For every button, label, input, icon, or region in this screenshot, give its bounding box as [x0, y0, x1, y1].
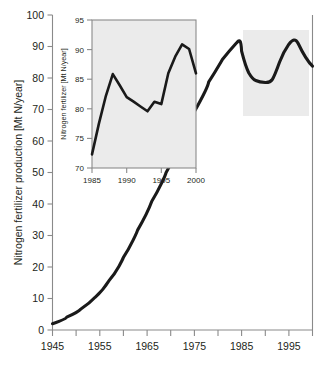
x-tick-label: 1945: [41, 340, 65, 352]
inset-x-tick-label: 1995: [152, 176, 170, 185]
inset-x-tick-label: 2000: [187, 176, 205, 185]
y-tick-label: 60: [32, 135, 44, 147]
main-y-axis-title: Nitrogen fertilizer production [Mt N/yea…: [12, 80, 24, 266]
x-tick-label: 1995: [277, 340, 301, 352]
inset-y-tick-label: 90: [75, 46, 84, 55]
inset-x-ticks: 1985 1990 1995 2000: [83, 168, 205, 185]
inset-y-axis-title: Nitrogen fertilizer [Mt N/year]: [59, 48, 68, 139]
y-tick-label: 0: [38, 324, 44, 336]
inset-y-tick-label: 80: [75, 105, 84, 114]
y-tick-label: 90: [32, 40, 44, 52]
nitrogen-fertilizer-chart: 0 10 20 30 40 50 60 70 80 90 100 1945: [0, 0, 329, 375]
y-tick-label: 20: [32, 261, 44, 273]
x-tick-label: 1965: [135, 340, 159, 352]
figure-container: 0 10 20 30 40 50 60 70 80 90 100 1945: [0, 0, 329, 375]
x-tick-label: 1985: [230, 340, 254, 352]
y-tick-label: 50: [32, 166, 44, 178]
y-tick-label: 80: [32, 72, 44, 84]
inset-chart: 70 75 80 85 90 95 1985 1990 1995: [59, 16, 205, 185]
y-tick-label: 40: [32, 198, 44, 210]
main-x-ticks: 1945 1955 1965 1975 1985 1995: [41, 330, 313, 352]
inset-y-ticks: 70 75 80 85 90 95: [75, 16, 92, 173]
inset-y-tick-label: 95: [75, 16, 84, 25]
x-tick-label: 1955: [88, 340, 112, 352]
x-tick-label: 1975: [183, 340, 207, 352]
inset-y-tick-label: 75: [75, 134, 84, 143]
main-y-ticks: 0 10 20 30 40 50 60 70 80 90 100: [26, 9, 52, 336]
y-tick-label: 10: [32, 292, 44, 304]
inset-y-tick-label: 70: [75, 164, 84, 173]
y-tick-label: 100: [26, 9, 44, 21]
y-tick-label: 30: [32, 229, 44, 241]
inset-x-tick-label: 1985: [83, 176, 101, 185]
y-tick-label: 70: [32, 103, 44, 115]
inset-y-tick-label: 85: [75, 75, 84, 84]
inset-x-tick-label: 1990: [118, 176, 136, 185]
